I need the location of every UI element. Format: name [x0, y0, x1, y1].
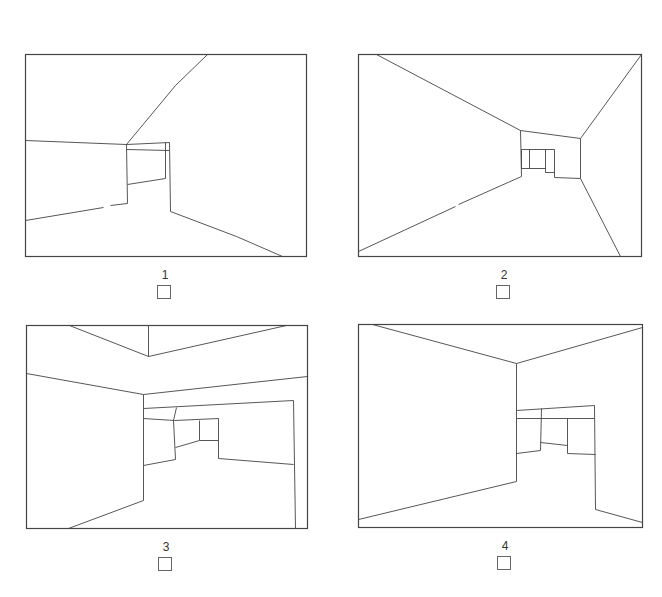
panel-4-checkbox[interactable] [497, 556, 511, 570]
panel-label-2: 2 [489, 268, 519, 282]
panel-1-edge [170, 143, 171, 212]
panel-3-edge [144, 460, 176, 466]
panel-3-edge [144, 377, 308, 395]
panel-2-edge [377, 55, 521, 131]
panel-3-edge [70, 326, 149, 357]
panel-2-edge [359, 207, 456, 252]
panel-1-edge [26, 141, 127, 145]
panel-label-3: 3 [151, 540, 181, 554]
panel-3-edge [149, 326, 287, 357]
panel-1-edge [127, 145, 128, 204]
panel-1-edge [128, 179, 166, 185]
panel-4-edge [541, 443, 568, 446]
panel-2-drawing [359, 55, 642, 257]
panel-1-edge [26, 208, 104, 221]
panel-1-edge [171, 212, 283, 257]
panel-3-edge [219, 459, 294, 465]
panel-4-edge [596, 510, 643, 523]
panel-4-edge [517, 451, 541, 454]
panel-4-edge [541, 409, 542, 451]
panel-3-edge [144, 419, 175, 421]
panel-4-frame [359, 325, 643, 528]
panel-label-4: 4 [490, 539, 520, 553]
panel-3-drawing [27, 326, 308, 529]
panel-3-edge [174, 408, 177, 421]
panel-2-edge [555, 178, 581, 179]
panel-4-edge [568, 454, 596, 455]
panel-1-edge [127, 150, 170, 151]
figure-canvas [0, 0, 662, 597]
panel-3-edge [294, 401, 296, 529]
panel-2-edge [459, 177, 522, 205]
panel-3-edge [176, 441, 200, 448]
panel-2-edge [581, 179, 621, 257]
panel-2-frame [359, 55, 642, 257]
panel-1-frame [26, 55, 307, 257]
panel-2-edge [521, 131, 581, 139]
panel-1-checkbox[interactable] [157, 285, 171, 299]
panel-3-edge [175, 419, 219, 421]
panel-1-edge [111, 204, 128, 206]
panel-3-edge [144, 401, 294, 409]
panel-4-edge [359, 482, 517, 520]
panel-4-edge [373, 325, 517, 364]
panel-4-drawing [359, 325, 643, 528]
panel-2-edge [581, 55, 642, 139]
panel-1-drawing [26, 55, 307, 257]
panel-4-edge [517, 406, 595, 411]
panel-3-edge [27, 374, 144, 395]
panel-label-1: 1 [150, 268, 180, 282]
panel-4-edge [595, 406, 596, 510]
panel-3-frame [27, 326, 308, 529]
panel-1-edge [127, 55, 208, 145]
panel-3-edge [174, 421, 176, 460]
perspective-drawings [26, 55, 643, 529]
panel-3-checkbox[interactable] [158, 557, 172, 571]
panel-4-edge [517, 328, 643, 364]
panel-1-edge [127, 143, 170, 145]
panel-3-edge [69, 501, 144, 529]
panel-2-checkbox[interactable] [496, 285, 510, 299]
